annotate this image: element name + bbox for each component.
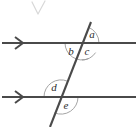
scan-artifact-mark <box>32 1 45 14</box>
angle-label-b: b <box>68 45 74 57</box>
angle-label-e: e <box>64 99 69 111</box>
angle-label-d: d <box>51 81 57 93</box>
angle-label-c: c <box>85 45 90 57</box>
angle-label-a: a <box>89 28 95 40</box>
parallel-lines-transversal-figure: a b c d e <box>0 0 140 127</box>
geometry-diagram: a b c d e <box>0 0 140 127</box>
